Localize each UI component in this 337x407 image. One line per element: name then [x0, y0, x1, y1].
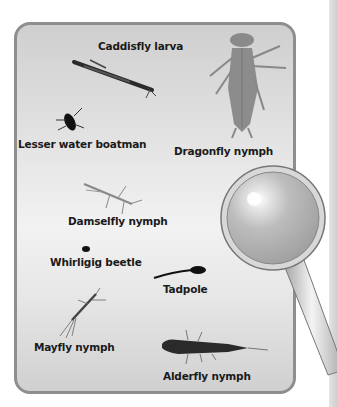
magnifying-glass-icon: [218, 165, 337, 400]
label-dragonfly-nymph: Dragonfly nymph: [174, 145, 273, 157]
label-caddisfly-larva: Caddisfly larva: [98, 40, 183, 52]
label-tadpole: Tadpole: [163, 283, 207, 295]
label-lesser-water-boatman: Lesser water boatman: [18, 138, 146, 150]
tadpole-illustration: [152, 264, 208, 280]
damselfly-nymph-illustration: [82, 180, 144, 216]
whirligig-beetle-illustration: [80, 244, 92, 254]
mayfly-nymph-illustration: [56, 288, 114, 340]
label-mayfly-nymph: Mayfly nymph: [34, 341, 115, 353]
caddisfly-larva-illustration: [70, 58, 160, 98]
label-damselfly-nymph: Damselfly nymph: [68, 215, 168, 227]
lesser-water-boatman-illustration: [52, 106, 88, 136]
dragonfly-nymph-illustration: [192, 28, 302, 138]
label-whirligig-beetle: Whirligig beetle: [50, 256, 142, 268]
